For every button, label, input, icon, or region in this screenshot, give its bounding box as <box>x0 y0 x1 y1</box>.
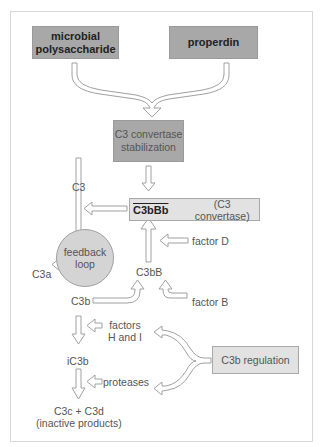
feedback-loop-circle: feedback loop <box>56 229 114 287</box>
c3b-to-c3bB-arrow <box>93 280 144 303</box>
products-line2: (inactive products) <box>36 417 122 429</box>
stabilization-line2: stabilization <box>121 141 176 154</box>
c3b-regulation-label: C3b regulation <box>221 354 289 366</box>
c3bBb-label: C3bBb <box>133 204 168 216</box>
proteases-arrow <box>87 375 102 388</box>
c3b-to-ic3b-arrow <box>72 316 85 344</box>
products-label: C3c + C3d (inactive products) <box>36 405 122 429</box>
products-line1: C3c + C3d <box>36 405 122 417</box>
properdin-box: properdin <box>169 26 258 59</box>
factors-hi-arrow <box>87 319 102 332</box>
regulation-fork-arrow <box>154 326 211 395</box>
c3-convertase-desc: (C3 convertase) <box>185 198 259 222</box>
proteases-label: proteases <box>103 376 149 388</box>
stabilization-line1: C3 convertase <box>115 128 183 141</box>
microbial-polysaccharide-line1: microbial <box>51 30 100 43</box>
c3-label: C3 <box>72 181 85 193</box>
merge-arrow <box>72 63 229 117</box>
c3b-label: C3b <box>71 295 90 307</box>
feedback-line2: loop <box>75 258 95 270</box>
factors-hi-label: factors H and I <box>108 319 142 343</box>
factor-d-arrow <box>160 234 188 247</box>
factors-hi-line1: factors <box>108 319 142 331</box>
microbial-polysaccharide-box: microbial polysaccharide <box>32 26 119 59</box>
arrows-layer <box>0 0 324 447</box>
feedback-line1: feedback <box>64 246 107 258</box>
c3bB-to-convertase-arrow <box>141 218 156 262</box>
convertase-to-c3-arrow <box>84 202 127 215</box>
ic3b-to-products-arrow <box>72 369 85 399</box>
ic3b-label: iC3b <box>67 355 89 367</box>
properdin-label: properdin <box>188 36 239 49</box>
c3b-regulation-box: C3b regulation <box>212 346 299 374</box>
c3a-label: C3a <box>32 268 51 280</box>
factors-hi-line2: H and I <box>108 331 142 343</box>
factor-b-arrow <box>159 280 187 298</box>
stabilization-box: C3 convertase stabilization <box>113 120 184 162</box>
factor-b-label: factor B <box>192 296 228 308</box>
microbial-polysaccharide-line2: polysaccharide <box>35 43 115 56</box>
c3bB-label: C3bB <box>136 266 162 278</box>
c3-convertase-box: C3bBb (C3 convertase) <box>129 198 260 221</box>
stabilization-to-convertase-arrow <box>142 166 155 191</box>
factor-d-label: factor D <box>192 235 229 247</box>
